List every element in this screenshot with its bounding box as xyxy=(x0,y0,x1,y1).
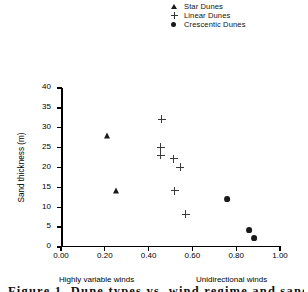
x-axis-line xyxy=(61,246,280,248)
y-tick: 15 xyxy=(57,187,62,188)
x-tick xyxy=(148,246,149,251)
data-point xyxy=(157,151,165,159)
y-tick-label: 40 xyxy=(42,83,51,91)
y-tick: 20 xyxy=(57,167,62,168)
legend-label-star-dunes: Star Dunes xyxy=(184,2,223,11)
data-point xyxy=(157,143,165,151)
data-point xyxy=(176,163,184,171)
y-tick: 10 xyxy=(57,207,62,208)
data-point xyxy=(171,187,179,195)
y-tick-label: 35 xyxy=(42,103,51,111)
filled-circle-icon xyxy=(168,20,184,29)
data-point xyxy=(170,155,178,163)
y-tick-label: 0 xyxy=(47,242,51,250)
x-tick-label: 0.80 xyxy=(228,252,244,260)
x-tick-label: 0.20 xyxy=(97,252,113,260)
data-point xyxy=(182,210,190,218)
data-point xyxy=(225,196,231,202)
legend-item-linear-dunes: Linear Dunes xyxy=(168,11,246,20)
y-tick: 25 xyxy=(57,147,62,148)
filled-triangle-icon xyxy=(168,2,184,11)
data-point xyxy=(246,227,252,233)
data-point xyxy=(104,132,110,138)
x-tick xyxy=(236,246,237,251)
x-tick-label: 1.00 xyxy=(272,252,288,260)
y-tick: 40 xyxy=(57,87,62,88)
x-tick xyxy=(104,246,105,251)
y-tick-label: 20 xyxy=(42,163,51,171)
data-point xyxy=(251,235,257,241)
plot-area: 0510152025303540 0.000.200.400.600.801.0… xyxy=(61,88,280,247)
figure-caption: Figure 1. Dune types vs. wind regime and… xyxy=(8,284,304,292)
x-tick xyxy=(279,246,280,251)
y-tick: 35 xyxy=(57,107,62,108)
data-point xyxy=(113,188,119,194)
chart-legend: Star Dunes Linear Dunes Crescentic Dunes xyxy=(168,2,246,29)
y-tick-label: 5 xyxy=(47,222,51,230)
plus-icon xyxy=(168,11,184,20)
y-tick-label: 10 xyxy=(42,203,51,211)
axis-note-left: Highly variable winds xyxy=(59,275,134,284)
y-axis-title: Sand thickness (m) xyxy=(16,88,28,247)
y-tick-label: 30 xyxy=(42,123,51,131)
legend-item-crescentic-dunes: Crescentic Dunes xyxy=(168,20,246,29)
x-tick-label: 0.40 xyxy=(141,252,157,260)
y-tick: 30 xyxy=(57,127,62,128)
x-tick-label: 0.00 xyxy=(53,252,69,260)
figure-container: Star Dunes Linear Dunes Crescentic Dunes… xyxy=(0,0,308,292)
legend-label-linear-dunes: Linear Dunes xyxy=(184,11,230,20)
x-tick xyxy=(192,246,193,251)
y-tick-label: 15 xyxy=(42,183,51,191)
y-tick-label: 25 xyxy=(42,143,51,151)
legend-item-star-dunes: Star Dunes xyxy=(168,2,246,11)
x-tick-label: 0.60 xyxy=(185,252,201,260)
legend-label-crescentic-dunes: Crescentic Dunes xyxy=(184,20,246,29)
y-tick: 5 xyxy=(57,226,62,227)
data-point xyxy=(158,115,166,123)
axis-note-right: Unidirectional winds xyxy=(196,275,267,284)
x-tick xyxy=(60,246,61,251)
